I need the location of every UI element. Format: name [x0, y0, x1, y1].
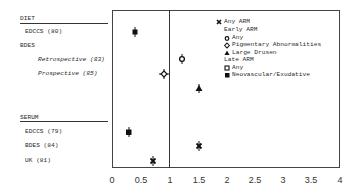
- x-tick-0: 0: [109, 175, 114, 185]
- x-tick-3-5: 3.5: [305, 175, 318, 185]
- x-tick-2-5: 2.5: [249, 175, 262, 185]
- legend-label-any-arm: Any ARM: [224, 19, 250, 25]
- legend-filled-square-icon: [225, 73, 230, 78]
- legend-label-early-arm: Early ARM: [224, 27, 257, 33]
- legend-filled-triangle-icon: [225, 51, 230, 56]
- x-tick-1-5: 1.5: [193, 175, 206, 185]
- legend-open-diamond-icon: [225, 43, 230, 48]
- x-tick-0-5: 0.5: [135, 175, 148, 185]
- marker-x-icon: [197, 141, 202, 151]
- x-tick-4: 4: [337, 175, 342, 185]
- legend-open-square-icon: [225, 66, 229, 70]
- legend-label-neovascular: Neovascular/Exudative: [232, 72, 310, 78]
- marker-filled-square-icon: [133, 27, 138, 37]
- legend-x-icon: [217, 20, 221, 24]
- data-markers: [0, 0, 359, 194]
- marker-filled-square-icon: [126, 127, 132, 137]
- marker-x-icon: [151, 156, 156, 166]
- x-tick-3: 3: [280, 175, 285, 185]
- marker-open-diamond-icon: [159, 69, 169, 79]
- legend-open-circle-icon: [225, 37, 229, 41]
- x-tick-2: 2: [224, 175, 229, 185]
- marker-open-circle-icon: [180, 54, 185, 64]
- legend-label-late-arm: Late ARM: [224, 57, 254, 63]
- x-tick-1: 1: [167, 175, 172, 185]
- legend-label-pigmentary: Pigmentary Abnormalities: [232, 42, 321, 48]
- marker-filled-triangle-icon: [196, 84, 203, 93]
